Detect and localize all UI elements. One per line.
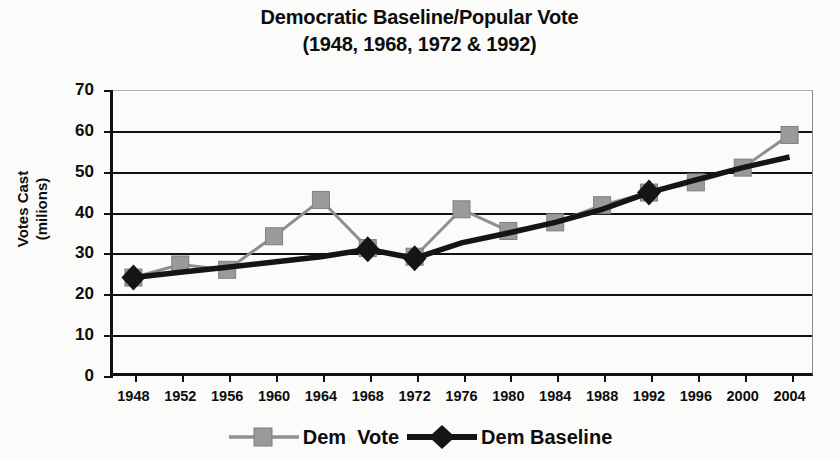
y-axis-label-40: 40 (54, 204, 94, 221)
x-axis-tick-1968 (370, 373, 372, 382)
legend-label-dem-baseline: Dem Baseline (481, 427, 612, 447)
plot-area (110, 90, 813, 376)
y-axis-tick-50 (104, 172, 113, 174)
legend-item-dem-vote[interactable]: Dem Vote (227, 424, 399, 450)
y-axis-label-50: 50 (54, 163, 94, 180)
y-axis-tick-10 (104, 335, 113, 337)
y-axis-title-line-2: (milions) (32, 129, 51, 289)
x-axis-tick-1988 (604, 373, 606, 382)
gridline-10 (113, 335, 812, 337)
y-axis-label-0: 0 (54, 367, 94, 384)
legend-key-diamond-icon (405, 424, 479, 450)
gridline-40 (113, 213, 812, 215)
y-axis-label-10: 10 (54, 326, 94, 343)
x-axis-tick-1972 (417, 373, 419, 382)
y-axis-tick-30 (104, 253, 113, 255)
chart-title-line-2: (1948, 1968, 1972 & 1992) (0, 31, 839, 58)
y-axis-label-30: 30 (54, 244, 94, 261)
chart-title-line-1: Democratic Baseline/Popular Vote (0, 4, 839, 31)
x-axis-tick-2004 (792, 373, 794, 382)
y-axis-label-70: 70 (54, 81, 94, 98)
x-axis-tick-1960 (276, 373, 278, 382)
y-axis-label-20: 20 (54, 285, 94, 302)
x-axis-tick-1948 (135, 373, 137, 382)
x-axis-tick-1992 (651, 373, 653, 382)
x-axis-tick-1980 (510, 373, 512, 382)
gridline-60 (113, 131, 812, 133)
y-axis-title-line-1: Votes Cast (13, 129, 32, 289)
x-axis-tick-1996 (698, 373, 700, 382)
x-axis-label-2004: 2004 (760, 389, 820, 404)
y-axis-tick-60 (104, 131, 113, 133)
x-axis-tick-1952 (182, 373, 184, 382)
y-axis-tick-70 (104, 90, 113, 92)
x-axis-tick-1964 (323, 373, 325, 382)
y-axis-tick-20 (104, 294, 113, 296)
chart-container: Democratic Baseline/Popular Vote (1948, … (0, 0, 839, 460)
legend-label-dem-vote: Dem Vote (303, 427, 399, 447)
x-axis-tick-2000 (745, 373, 747, 382)
x-axis-tick-1984 (557, 373, 559, 382)
chart-title: Democratic Baseline/Popular Vote (1948, … (0, 4, 839, 58)
gridline-50 (113, 172, 812, 174)
x-axis-tick-1976 (464, 373, 466, 382)
y-axis-tick-40 (104, 213, 113, 215)
gridline-70 (113, 90, 812, 91)
y-axis-title: Votes Cast (milions) (13, 129, 51, 289)
gridline-20 (113, 294, 812, 296)
y-axis-tick-0 (104, 376, 113, 378)
legend-item-dem-baseline[interactable]: Dem Baseline (405, 424, 612, 450)
chart-legend: Dem Vote Dem Baseline (0, 424, 839, 450)
legend-key-square-icon (227, 424, 301, 450)
x-axis-tick-labels: 1948195219561960196419681972197619801984… (110, 385, 813, 407)
x-axis-tick-1956 (229, 373, 231, 382)
gridline-30 (113, 253, 812, 255)
y-axis-label-60: 60 (54, 122, 94, 139)
